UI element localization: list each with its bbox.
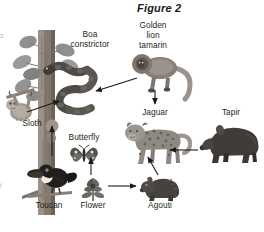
boa-constrictor-illustration <box>44 57 100 119</box>
toucan-illustration <box>26 160 78 202</box>
page-edge-fragment-bottom: t <box>0 182 6 198</box>
jaguar-illustration <box>123 120 195 168</box>
label-golden-lion-tamarin: Golden lion tamarin <box>124 20 182 51</box>
tapir-illustration <box>200 120 262 164</box>
page-edge-fragment-top: s <box>0 32 6 48</box>
label-agouti: Agouti <box>136 200 184 210</box>
label-flower: Flower <box>70 200 116 210</box>
label-tapir: Tapir <box>209 107 253 117</box>
figure-container: Figure 2 s t <box>0 0 264 232</box>
figure-title: Figure 2 <box>137 2 181 14</box>
label-sloth: Sloth <box>9 118 55 128</box>
label-boa-constrictor: Boa constrictor <box>53 29 127 49</box>
golden-lion-tamarin-illustration <box>130 50 196 100</box>
label-butterfly: Butterfly <box>56 132 112 142</box>
flower-illustration <box>78 176 108 202</box>
label-jaguar: Jaguar <box>131 107 179 117</box>
agouti-illustration <box>139 174 181 202</box>
label-toucan: Toucan <box>26 200 72 210</box>
